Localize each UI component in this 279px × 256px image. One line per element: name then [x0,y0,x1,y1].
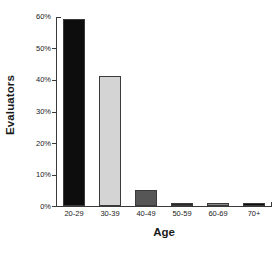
plot-area [56,17,272,207]
bar-30-39 [99,76,121,206]
chart-figure: Evaluators 0%10%20%30%40%50%60% 20-2930-… [0,0,279,256]
x-axis-tick-label: 60-69 [200,209,236,219]
x-axis-tick-labels: 20-2930-3940-4950-5960-6970+ [56,209,272,223]
bar-20-29 [63,19,85,206]
y-axis-title: Evaluators [0,0,20,210]
x-axis-tick-label: 50-59 [164,209,200,219]
bar-40-49 [135,190,157,206]
x-axis-line [56,206,272,207]
y-axis-tick-label: 0% [21,203,51,211]
x-axis-title: Age [56,226,272,238]
y-axis-tick-label: 20% [21,140,51,148]
y-axis-tick-label: 30% [21,108,51,116]
y-axis-tick-label: 40% [21,76,51,84]
y-axis-bottom-cap [52,206,57,207]
y-axis-top-cap [56,17,61,18]
y-axis-tick-labels: 0%10%20%30%40%50%60% [18,0,51,220]
y-axis-title-text: Evaluators [4,75,16,135]
y-axis-tick [52,175,57,176]
x-axis-right-cap [271,202,272,207]
x-axis-tick-label: 20-29 [56,209,92,219]
y-axis-tick-label: 60% [21,13,51,21]
y-axis-tick [52,48,57,49]
y-axis-tick-label: 50% [21,45,51,53]
x-axis-tick-label: 30-39 [92,209,128,219]
bar-50-59 [171,203,193,206]
y-axis-tick [52,80,57,81]
bar-60-69 [207,203,229,206]
x-axis-tick-label: 40-49 [128,209,164,219]
y-axis-tick [52,112,57,113]
y-axis-tick [52,143,57,144]
bar-70+ [243,203,265,206]
y-axis-tick-label: 10% [21,171,51,179]
x-axis-tick-label: 70+ [236,209,272,219]
